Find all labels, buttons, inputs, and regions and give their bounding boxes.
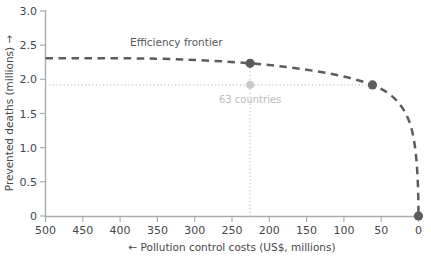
y-tick-label: 3.0: [20, 5, 38, 18]
x-tick-label: 350: [147, 224, 168, 237]
y-tick-label: 1.5: [20, 108, 38, 121]
x-tick-label: 400: [110, 224, 131, 237]
efficiency-frontier-chart: 3.0 2.5 2.0 1.5 1.0 0.5 0 500 450 400 35…: [0, 0, 431, 261]
x-tick-label: 300: [184, 224, 205, 237]
x-tick-label: 150: [296, 224, 317, 237]
y-tick-label: 2.0: [20, 73, 38, 86]
x-tick-label: 500: [35, 224, 56, 237]
frontier-point-85: [368, 80, 377, 89]
y-tick-label: 2.5: [20, 39, 38, 52]
y-tick-label: 0: [30, 210, 37, 223]
x-tick-label: 50: [374, 224, 388, 237]
x-tick-label: 200: [259, 224, 280, 237]
x-tick-label: 250: [222, 224, 243, 237]
y-tick-label: 0.5: [20, 176, 38, 189]
y-axis-title: Prevented deaths (millions) →: [3, 35, 15, 192]
x-tick-label: 100: [333, 224, 354, 237]
current-allocation-point: [246, 81, 254, 89]
y-tick-label: 1.0: [20, 142, 38, 155]
x-tick-label: 450: [72, 224, 93, 237]
x-axis-title: ← Pollution control costs (US$, millions…: [128, 241, 335, 253]
frontier-point-origin: [414, 211, 423, 220]
efficiency-frontier-label: Efficiency frontier: [130, 36, 223, 48]
countries-label: 63 countries: [219, 94, 281, 105]
frontier-point-225: [246, 59, 255, 68]
x-tick-label: 0: [415, 224, 422, 237]
chart-svg: 3.0 2.5 2.0 1.5 1.0 0.5 0 500 450 400 35…: [0, 0, 431, 261]
